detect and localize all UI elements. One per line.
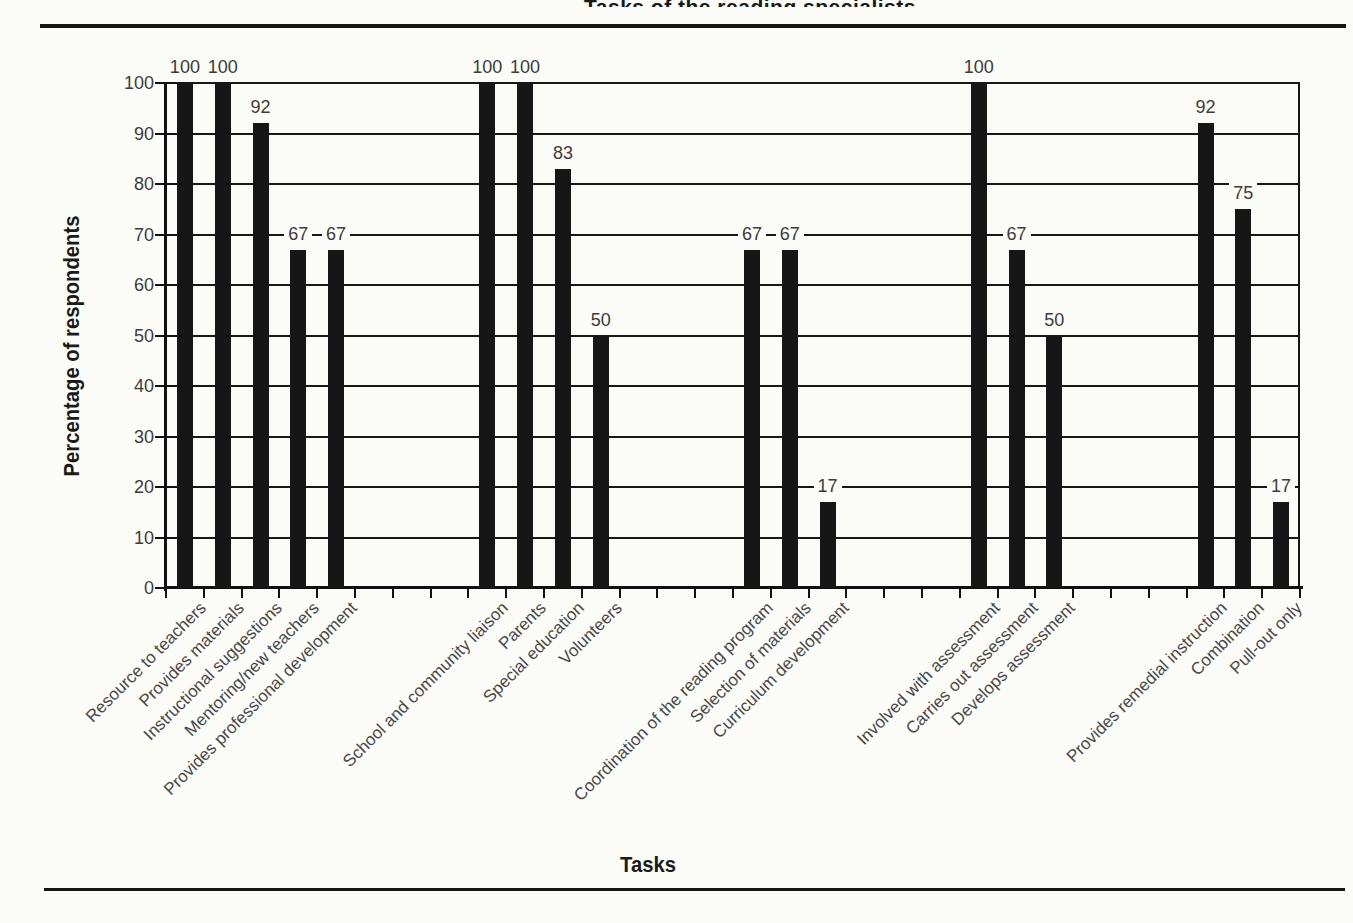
bar-value-label: 100 (468, 57, 506, 77)
category-label: Provides remedial instruction (1063, 599, 1230, 766)
y-tick-label: 100 (102, 73, 154, 93)
x-axis-tick (921, 588, 923, 598)
bar-value-label: 50 (1040, 310, 1068, 330)
bar-value-label: 17 (1267, 476, 1295, 496)
bar (593, 336, 609, 589)
bar (290, 250, 306, 588)
gridline (166, 133, 1300, 135)
bar (1009, 250, 1025, 588)
x-axis-tick (1110, 588, 1112, 598)
y-axis-title: Percentage of respondents (59, 216, 85, 477)
bar (215, 83, 231, 588)
bar (782, 250, 798, 588)
x-axis-tick (505, 588, 507, 598)
x-axis-tick (959, 588, 961, 598)
x-axis-tick (1299, 588, 1301, 598)
chart-plot-area: 0102030405060708090100100Resource to tea… (166, 83, 1300, 588)
x-axis-tick (1034, 588, 1036, 598)
y-axis-tick (155, 436, 176, 438)
y-tick-label: 80 (102, 174, 154, 194)
bar (1046, 336, 1062, 589)
bar (253, 123, 269, 588)
y-tick-label: 10 (102, 528, 154, 548)
x-axis-tick (732, 588, 734, 598)
x-axis-tick (845, 588, 847, 598)
cropped-figure-title: Tasks of the reading specialists (520, 0, 980, 7)
bar-value-label: 67 (776, 224, 804, 244)
y-axis-tick (155, 537, 176, 539)
gridline (166, 82, 1300, 84)
y-axis-tick (155, 284, 176, 286)
y-axis-tick (155, 335, 176, 337)
x-axis-tick (656, 588, 658, 598)
x-axis-tick (619, 588, 621, 598)
x-axis-tick (1072, 588, 1074, 598)
bar-value-label: 50 (587, 310, 615, 330)
x-axis-tick (581, 588, 583, 598)
gridline (166, 183, 1300, 185)
x-axis-tick (278, 588, 280, 598)
x-axis-tick (203, 588, 205, 598)
bar-value-label: 17 (813, 476, 841, 496)
y-axis-tick (155, 385, 176, 387)
x-axis-tick (467, 588, 469, 598)
bar (479, 83, 495, 588)
bar-value-label: 92 (1191, 97, 1219, 117)
bar-value-label: 100 (506, 57, 544, 77)
y-tick-label: 60 (102, 275, 154, 295)
x-axis-tick (1148, 588, 1150, 598)
y-axis-tick (155, 234, 176, 236)
bar (820, 502, 836, 588)
x-axis-tick (543, 588, 545, 598)
bar-value-label: 67 (1002, 224, 1030, 244)
bottom-rule (44, 888, 1345, 891)
bar-value-label: 75 (1229, 183, 1257, 203)
bar-value-label: 92 (246, 97, 274, 117)
y-tick-label: 70 (102, 225, 154, 245)
top-rule (40, 24, 1346, 28)
bar-value-label: 100 (204, 57, 242, 77)
bar (177, 83, 193, 588)
bar (1273, 502, 1289, 588)
y-tick-label: 90 (102, 124, 154, 144)
bar-value-label: 100 (166, 57, 204, 77)
x-axis-tick (1186, 588, 1188, 598)
bar (1198, 123, 1214, 588)
x-axis-tick (1261, 588, 1263, 598)
bar-value-label: 83 (549, 143, 577, 163)
x-axis-tick (430, 588, 432, 598)
bar (555, 169, 571, 588)
x-axis-tick (694, 588, 696, 598)
x-axis-tick (997, 588, 999, 598)
x-axis-tick (392, 588, 394, 598)
category-label: Involved with assessment (854, 599, 1004, 749)
x-axis-tick (316, 588, 318, 598)
bar-value-label: 67 (738, 224, 766, 244)
y-axis-tick (155, 82, 176, 84)
y-tick-label: 50 (102, 326, 154, 346)
x-axis-tick (770, 588, 772, 598)
figure: Tasks of the reading specialists Percent… (0, 0, 1353, 923)
x-axis-tick (165, 588, 167, 598)
y-tick-label: 40 (102, 376, 154, 396)
y-tick-label: 30 (102, 427, 154, 447)
bar-value-label: 100 (960, 57, 998, 77)
y-axis-tick (155, 486, 176, 488)
y-tick-label: 0 (102, 578, 154, 598)
y-tick-label: 20 (102, 477, 154, 497)
y-axis-tick (155, 183, 176, 185)
x-axis-tick (241, 588, 243, 598)
bar-value-label: 67 (284, 224, 312, 244)
bar-value-label: 67 (322, 224, 350, 244)
bar (517, 83, 533, 588)
y-axis-line (164, 82, 167, 591)
y-axis-tick (155, 133, 176, 135)
bar (744, 250, 760, 588)
x-axis-title: Tasks (620, 852, 676, 878)
x-axis-tick (1223, 588, 1225, 598)
bar (328, 250, 344, 588)
x-axis-tick (808, 588, 810, 598)
bar (971, 83, 987, 588)
x-axis-tick (883, 588, 885, 598)
x-axis-tick (354, 588, 356, 598)
